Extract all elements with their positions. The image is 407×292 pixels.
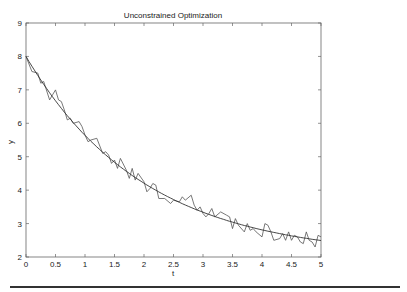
- bottom-rule: [10, 286, 400, 288]
- chart: Unconstrained Optimization 00.511.522.53…: [0, 0, 407, 292]
- svg-text:6: 6: [18, 119, 23, 128]
- svg-text:4.5: 4.5: [286, 260, 298, 269]
- svg-text:1: 1: [83, 260, 88, 269]
- svg-text:0.5: 0.5: [50, 260, 62, 269]
- svg-text:3.5: 3.5: [227, 260, 239, 269]
- svg-text:5: 5: [18, 153, 23, 162]
- x-axis-label: t: [172, 269, 175, 278]
- svg-text:3: 3: [18, 220, 23, 229]
- svg-text:5: 5: [319, 260, 324, 269]
- svg-text:9: 9: [18, 19, 23, 28]
- svg-text:4: 4: [260, 260, 265, 269]
- svg-text:4: 4: [18, 186, 23, 195]
- y-axis-label: y: [6, 140, 15, 144]
- svg-text:2: 2: [18, 253, 23, 262]
- svg-text:2.5: 2.5: [168, 260, 180, 269]
- plot-area: [26, 23, 321, 257]
- svg-text:2: 2: [142, 260, 147, 269]
- svg-text:1.5: 1.5: [109, 260, 121, 269]
- svg-text:3: 3: [201, 260, 206, 269]
- svg-text:7: 7: [18, 86, 23, 95]
- svg-text:8: 8: [18, 52, 23, 61]
- chart-title: Unconstrained Optimization: [124, 11, 222, 20]
- svg-text:0: 0: [24, 260, 29, 269]
